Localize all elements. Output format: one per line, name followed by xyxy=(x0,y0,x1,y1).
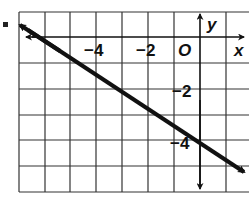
y-tick-label-neg2: −2 xyxy=(172,82,191,101)
x-tick-label-neg2: −2 xyxy=(136,41,155,60)
coordinate-plane: −4 −2 O x y −2 −4 xyxy=(0,0,249,199)
y-axis-label: y xyxy=(206,15,218,34)
y-tick-label-neg4: −4 xyxy=(170,134,190,153)
x-axis-label: x xyxy=(233,41,245,60)
x-tick-label-neg4: −4 xyxy=(84,41,104,60)
origin-label: O xyxy=(178,41,191,60)
graphed-line-arrow-left xyxy=(20,25,60,51)
